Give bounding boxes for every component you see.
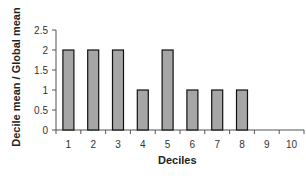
y-tick-label: 2 — [42, 45, 48, 56]
x-tick-label: 8 — [239, 139, 245, 150]
y-tick-label: 1 — [42, 85, 48, 96]
x-tick-label: 1 — [66, 139, 72, 150]
x-tick-label: 5 — [165, 139, 171, 150]
y-axis-label: Decile mean / Global mean — [10, 0, 22, 157]
x-tick-label: 9 — [264, 139, 270, 150]
bar-chart: Decile mean / Global mean Deciles 00.511… — [0, 0, 306, 182]
x-tick-label: 2 — [90, 139, 96, 150]
x-tick-label: 6 — [190, 139, 196, 150]
bar-decile-3 — [113, 50, 124, 130]
y-tick-label: 1.5 — [34, 65, 48, 76]
bar-decile-4 — [137, 90, 148, 130]
bar-decile-8 — [237, 90, 248, 130]
bar-decile-1 — [63, 50, 74, 130]
bar-decile-6 — [187, 90, 198, 130]
x-tick-label: 3 — [115, 139, 121, 150]
plot-area: 00.511.522.512345678910 — [0, 0, 306, 182]
y-tick-label: 2.5 — [34, 25, 48, 36]
y-tick-label: 0 — [42, 125, 48, 136]
x-tick-label: 4 — [140, 139, 146, 150]
y-tick-label: 0.5 — [34, 105, 48, 116]
bar-decile-5 — [162, 50, 173, 130]
bar-decile-7 — [212, 90, 223, 130]
x-tick-label: 10 — [286, 139, 298, 150]
x-axis-label: Deciles — [158, 154, 197, 166]
bar-decile-2 — [88, 50, 99, 130]
x-tick-label: 7 — [214, 139, 220, 150]
